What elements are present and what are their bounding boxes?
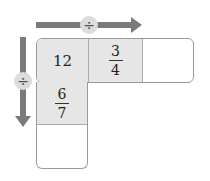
answer-cell-bottom[interactable] <box>37 125 87 169</box>
left-column-frame: 6 7 <box>36 82 88 169</box>
numerator: 3 <box>111 44 120 58</box>
divide-operator-vertical: ÷ <box>14 72 32 90</box>
cell-three-quarters: 3 4 <box>89 39 143 82</box>
horizontal-arrowhead <box>131 17 142 33</box>
fraction-bar <box>55 103 69 104</box>
answer-cell-right[interactable] <box>143 39 194 82</box>
denominator: 4 <box>111 63 120 77</box>
divide-operator-horizontal: ÷ <box>80 16 98 34</box>
cell-value: 12 <box>53 52 72 70</box>
cell-six-sevenths: 6 7 <box>37 82 87 125</box>
fraction: 3 4 <box>109 44 123 77</box>
vertical-arrowhead <box>15 116 31 127</box>
denominator: 7 <box>58 106 67 120</box>
fraction-bar <box>109 60 123 61</box>
fraction: 6 7 <box>55 87 69 120</box>
top-row-frame: 12 3 4 <box>36 38 194 83</box>
arrows-layer <box>0 0 210 181</box>
cell-12: 12 <box>37 39 89 82</box>
numerator: 6 <box>58 87 67 101</box>
